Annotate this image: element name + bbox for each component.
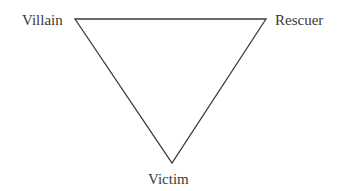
- node-victim-label: Victim: [148, 172, 189, 187]
- node-villain-label: Villain: [22, 13, 63, 28]
- node-rescuer-label: Rescuer: [275, 13, 323, 28]
- triangle-edges: [75, 19, 266, 163]
- triangle-diagram: [0, 0, 347, 191]
